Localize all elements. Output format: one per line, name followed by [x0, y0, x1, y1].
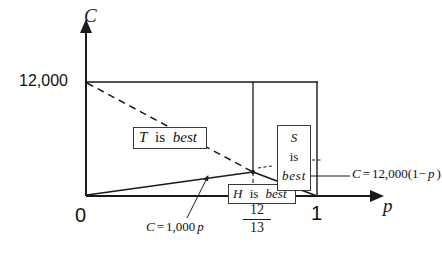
equation-lower-rhs: 1,000 — [166, 219, 195, 234]
equation-lower-line: C=1,000p — [146, 220, 206, 233]
equation-lower-eq: = — [157, 219, 164, 234]
region-label-t: T is best — [133, 127, 207, 149]
origin-label: 0 — [75, 205, 86, 225]
fraction-numerator: 12 — [243, 203, 271, 218]
region-h-connector: is — [250, 186, 259, 201]
region-t-connector: is — [155, 129, 165, 145]
x-tick-label-fraction: 12 13 — [243, 203, 271, 235]
y-tick-label-12000: 12,000 — [19, 73, 68, 89]
equation-upper-lhs: C — [352, 166, 361, 181]
diagram-canvas — [0, 0, 442, 256]
region-s-connector: is — [280, 148, 308, 167]
leader-divider-stub — [258, 166, 272, 168]
leader-lower-equation — [187, 180, 206, 218]
equation-upper-line: C=12,000(1−p) — [352, 167, 442, 180]
fraction-denominator: 13 — [243, 221, 271, 236]
region-t-qualifier: best — [173, 129, 197, 145]
x-axis-label: p — [383, 196, 393, 215]
equation-lower-lhs: C — [146, 219, 155, 234]
region-h-symbol: H — [233, 186, 242, 201]
equation-upper-rhs-prefix: 12,000(1− — [372, 166, 426, 181]
equation-upper-rhs-suffix: ) — [436, 166, 440, 181]
region-s-qualifier: best — [280, 167, 308, 186]
equation-upper-eq: = — [363, 166, 370, 181]
region-t-symbol: T — [139, 129, 147, 145]
figure-root: C p 12,000 0 1 12 13 T is best H is best… — [0, 0, 442, 256]
crossing-point-marker — [251, 170, 255, 174]
y-axis-label: C — [84, 6, 97, 25]
region-label-s: S is best — [277, 125, 311, 191]
x-tick-label-one: 1 — [311, 203, 322, 223]
axis-group — [86, 31, 372, 196]
equation-lower-var: p — [197, 219, 204, 234]
region-s-symbol: S — [280, 129, 308, 148]
equation-upper-var: p — [428, 166, 435, 181]
